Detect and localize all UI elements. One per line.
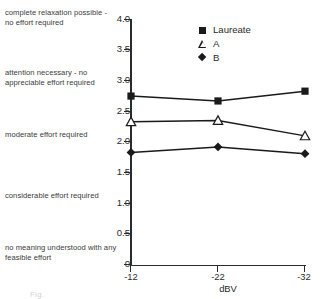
data-point-laureate--32 (301, 88, 308, 95)
chart-legend: Laureate A B (196, 23, 306, 65)
legend-item-laureate: Laureate (196, 23, 306, 37)
legend-item-a: A (196, 37, 306, 51)
filled-diamond-icon (196, 51, 210, 65)
legend-label-b: B (213, 53, 219, 63)
caption-remnant: Fig. (30, 290, 44, 299)
data-point-b--12 (127, 148, 136, 157)
listening-effort-figure: complete relaxation possible - no effort… (0, 0, 320, 299)
data-point-b--32 (301, 149, 310, 158)
open-triangle-icon (196, 37, 210, 51)
legend-label-laureate: Laureate (213, 25, 251, 35)
data-point-b--22 (214, 143, 223, 152)
data-point-laureate--22 (214, 97, 221, 104)
data-point-laureate--12 (127, 92, 134, 99)
legend-item-b: B (196, 51, 306, 65)
legend-label-a: A (213, 39, 219, 49)
filled-square-icon (196, 23, 210, 37)
